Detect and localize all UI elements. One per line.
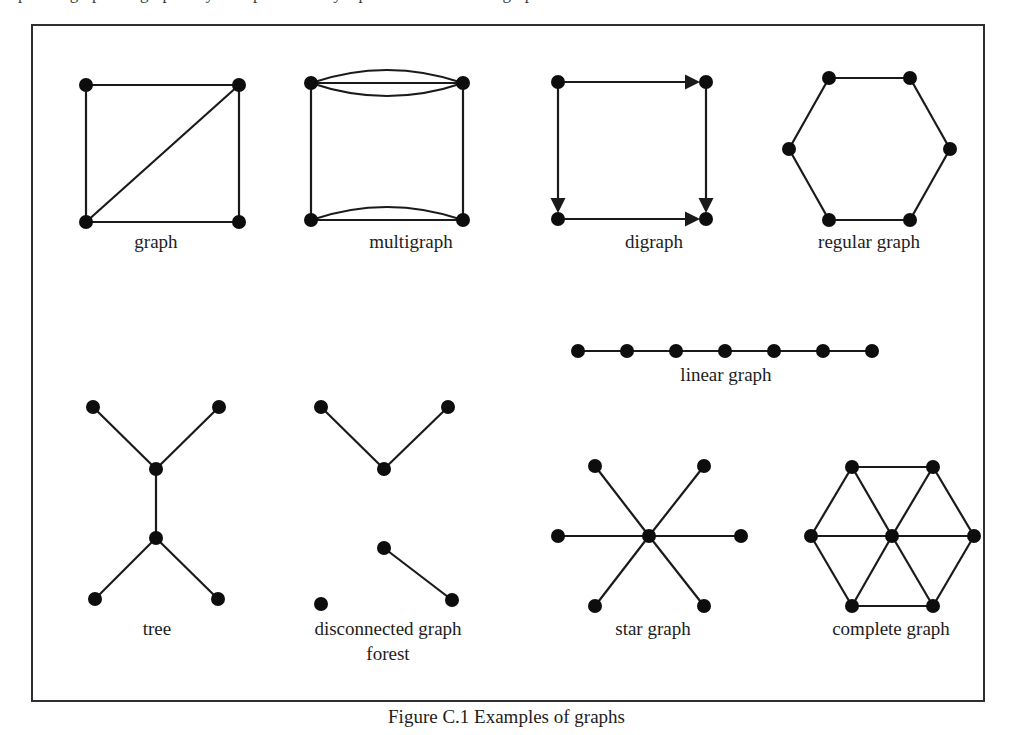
edge-line-star-graph-1: [649, 466, 704, 536]
edge-line-regular-graph-1: [910, 78, 950, 149]
vertex-tree-3: [149, 531, 163, 545]
vertex-linear-graph-3: [718, 344, 732, 358]
graph-panel-complete-graph: complete graph: [804, 460, 981, 639]
cut-off-body-text-line: ples of graphs. A graph may be represent…: [18, 0, 566, 4]
vertex-tree-2: [149, 462, 163, 476]
vertex-disconnected-graph-forest-3: [377, 541, 391, 555]
edge-line-complete-graph-7: [892, 467, 933, 536]
vertex-star-graph-6: [551, 529, 565, 543]
graph-label-line: star graph: [615, 618, 691, 639]
vertex-complete-graph-3: [967, 529, 981, 543]
graph-label-line: forest: [366, 643, 410, 664]
graph-panel-regular-graph: regular graph: [782, 71, 957, 252]
vertex-star-graph-0: [642, 529, 656, 543]
graph-label-disconnected-graph-forest: disconnected graphforest: [314, 618, 462, 664]
figure-root: ples of graphs. A graph may be represent…: [0, 0, 1013, 735]
edge-line-complete-graph-6: [852, 467, 892, 536]
vertex-digraph-2: [551, 212, 565, 226]
edge-line-disconnected-graph-forest-0: [321, 407, 384, 469]
graph-panel-tree: tree: [86, 400, 226, 639]
edge-line-disconnected-graph-forest-2: [384, 548, 452, 600]
edge-line-complete-graph-1: [933, 467, 974, 536]
vertex-graph-3: [232, 215, 246, 229]
vertex-disconnected-graph-forest-1: [441, 400, 455, 414]
edge-line-regular-graph-4: [789, 149, 829, 220]
edge-line-complete-graph-2: [933, 536, 974, 606]
graph-panel-multigraph: multigraph: [304, 70, 470, 252]
graph-label-line: linear graph: [680, 364, 772, 385]
arrowhead-digraph-0: [685, 75, 700, 90]
edge-line-star-graph-0: [595, 466, 649, 536]
graph-label-line: multigraph: [369, 231, 453, 252]
edge-line-complete-graph-9: [892, 536, 933, 606]
figure-frame-border: graphmultigraphdigraphregular graphlinea…: [31, 24, 985, 702]
vertex-multigraph-3: [456, 213, 470, 227]
vertex-star-graph-5: [588, 599, 602, 613]
graph-panel-linear-graph: linear graph: [571, 344, 879, 385]
vertex-complete-graph-5: [845, 599, 859, 613]
vertex-regular-graph-4: [822, 213, 836, 227]
edge-line-star-graph-3: [649, 536, 704, 606]
cut-off-body-text: ples of graphs. A graph may be represent…: [0, 0, 1013, 12]
graph-label-multigraph: multigraph: [369, 231, 453, 252]
vertex-multigraph-0: [304, 76, 318, 90]
vertex-linear-graph-6: [865, 344, 879, 358]
edge-line-regular-graph-5: [789, 78, 829, 149]
graph-panel-star-graph: star graph: [551, 459, 748, 639]
vertex-linear-graph-4: [767, 344, 781, 358]
vertex-graph-0: [79, 78, 93, 92]
edge-line-star-graph-4: [595, 536, 649, 606]
edge-arc-multigraph-1: [311, 70, 463, 83]
vertex-tree-0: [86, 400, 100, 414]
edge-line-tree-0: [93, 407, 156, 469]
edge-line-complete-graph-10: [852, 536, 892, 606]
edge-line-disconnected-graph-forest-1: [384, 407, 448, 469]
vertex-linear-graph-0: [571, 344, 585, 358]
graph-label-digraph: digraph: [625, 231, 684, 252]
vertex-star-graph-4: [697, 599, 711, 613]
graph-label-line: digraph: [625, 231, 684, 252]
vertex-complete-graph-6: [804, 529, 818, 543]
vertex-graph-1: [232, 78, 246, 92]
graph-panel-disconnected-graph-forest: disconnected graphforest: [314, 400, 462, 664]
graph-label-line: tree: [143, 618, 171, 639]
vertex-star-graph-1: [588, 459, 602, 473]
vertex-complete-graph-2: [926, 460, 940, 474]
vertex-regular-graph-5: [782, 142, 796, 156]
graph-label-graph: graph: [134, 231, 178, 252]
graph-label-complete-graph: complete graph: [832, 618, 950, 639]
arrowhead-digraph-1: [551, 198, 566, 213]
graph-label-tree: tree: [143, 618, 171, 639]
vertex-tree-4: [88, 592, 102, 606]
vertex-digraph-0: [551, 75, 565, 89]
graph-panel-digraph: digraph: [551, 75, 714, 253]
graph-label-line: graph: [134, 231, 178, 252]
vertex-regular-graph-2: [943, 142, 957, 156]
edge-line-tree-1: [156, 407, 219, 469]
graph-panel-graph: graph: [79, 78, 246, 252]
arrowhead-digraph-3: [699, 198, 714, 213]
vertex-complete-graph-4: [926, 599, 940, 613]
edge-line-regular-graph-2: [910, 149, 950, 220]
graph-label-star-graph: star graph: [615, 618, 691, 639]
edge-arc-multigraph-2: [311, 83, 463, 96]
vertex-multigraph-2: [304, 213, 318, 227]
vertex-linear-graph-5: [816, 344, 830, 358]
vertex-digraph-1: [699, 75, 713, 89]
vertex-linear-graph-1: [620, 344, 634, 358]
graph-label-line: disconnected graph: [314, 618, 462, 639]
vertex-regular-graph-3: [903, 213, 917, 227]
vertex-tree-5: [211, 592, 225, 606]
vertex-disconnected-graph-forest-2: [377, 462, 391, 476]
vertex-complete-graph-1: [845, 460, 859, 474]
graph-label-line: complete graph: [832, 618, 950, 639]
edge-line-tree-4: [156, 538, 218, 599]
vertex-disconnected-graph-forest-0: [314, 400, 328, 414]
edge-line-complete-graph-5: [811, 467, 852, 536]
vertex-multigraph-1: [456, 76, 470, 90]
vertex-regular-graph-0: [822, 71, 836, 85]
vertex-tree-1: [212, 400, 226, 414]
vertex-disconnected-graph-forest-4: [445, 593, 459, 607]
edge-arc-multigraph-6: [311, 207, 463, 220]
vertex-digraph-3: [699, 212, 713, 226]
